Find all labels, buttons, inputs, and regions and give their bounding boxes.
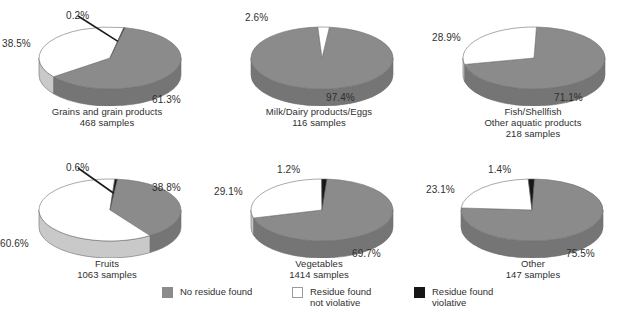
pie-value-label-fruits-no_residue: 38.8% bbox=[152, 182, 181, 193]
pie-value-label-other-no_residue: 75.5% bbox=[566, 248, 595, 259]
caption-line: Fruits bbox=[0, 258, 214, 269]
pie-value-label-grains-not_violative: 38.5% bbox=[2, 38, 31, 49]
pie-graphic-other: 75.5%23.1%1.4% bbox=[426, 158, 640, 258]
caption-line: Other bbox=[426, 258, 640, 269]
caption-line: Grains and grain products bbox=[0, 106, 214, 117]
pie-value-label-milk-dairy-eggs-not_violative: 2.6% bbox=[245, 12, 268, 23]
pie-caption-grains: Grains and grain products468 samples bbox=[0, 106, 214, 128]
pie-value-label-other-not_violative: 23.1% bbox=[426, 184, 455, 195]
pie-svg-fruits bbox=[0, 158, 214, 258]
caption-line: 468 samples bbox=[0, 117, 214, 128]
caption-line: 218 samples bbox=[426, 128, 640, 139]
pie-chart-fruits: 38.8%60.6%0.6%Fruits1063 samples bbox=[0, 158, 214, 280]
caption-line: Vegetables bbox=[212, 258, 426, 269]
caption-line: 116 samples bbox=[212, 117, 426, 128]
legend-swatch-no_residue bbox=[162, 287, 173, 298]
chart-legend: No residue foundResidue found not violat… bbox=[0, 282, 644, 324]
pie-svg-other bbox=[426, 158, 640, 258]
pie-value-label-grains-no_residue: 61.3% bbox=[152, 94, 181, 105]
legend-item-no_residue: No residue found bbox=[162, 286, 252, 298]
legend-label-violative: Residue found violative bbox=[432, 286, 493, 308]
pie-value-label-fruits-violative: 0.6% bbox=[66, 162, 89, 173]
pie-chart-figure: 61.3%38.5%0.2%Grains and grain products4… bbox=[0, 0, 644, 324]
caption-line: 147 samples bbox=[426, 269, 640, 280]
pie-graphic-grains: 61.3%38.5%0.2% bbox=[0, 6, 214, 106]
pie-graphic-vegetables: 69.7%29.1%1.2% bbox=[212, 158, 426, 258]
pie-svg-fish-shellfish bbox=[426, 6, 640, 106]
pie-caption-other: Other147 samples bbox=[426, 258, 640, 280]
pie-chart-milk-dairy-eggs: 97.4%2.6%Milk/Dairy products/Eggs116 sam… bbox=[212, 6, 426, 128]
legend-swatch-not_violative bbox=[292, 287, 303, 298]
pie-value-label-fruits-not_violative: 60.6% bbox=[0, 238, 29, 249]
pie-caption-fruits: Fruits1063 samples bbox=[0, 258, 214, 280]
pie-graphic-fish-shellfish: 71.1%28.9% bbox=[426, 6, 640, 106]
caption-line: Fish/Shellfish bbox=[426, 106, 640, 117]
pie-caption-vegetables: Vegetables1414 samples bbox=[212, 258, 426, 280]
pie-chart-grains: 61.3%38.5%0.2%Grains and grain products4… bbox=[0, 6, 214, 128]
pie-chart-vegetables: 69.7%29.1%1.2%Vegetables1414 samples bbox=[212, 158, 426, 280]
pie-caption-fish-shellfish: Fish/ShellfishOther aquatic products218 … bbox=[426, 106, 640, 140]
caption-line: 1063 samples bbox=[0, 269, 214, 280]
pie-value-label-vegetables-not_violative: 29.1% bbox=[214, 186, 243, 197]
pie-svg-grains bbox=[0, 6, 214, 106]
pie-chart-fish-shellfish: 71.1%28.9%Fish/ShellfishOther aquatic pr… bbox=[426, 6, 640, 140]
caption-line: Other aquatic products bbox=[426, 117, 640, 128]
pie-value-label-vegetables-no_residue: 69.7% bbox=[352, 248, 381, 259]
legend-swatch-violative bbox=[414, 287, 425, 298]
pie-graphic-fruits: 38.8%60.6%0.6% bbox=[0, 158, 214, 258]
pie-graphic-milk-dairy-eggs: 97.4%2.6% bbox=[212, 6, 426, 106]
pie-value-label-grains-violative: 0.2% bbox=[66, 10, 89, 21]
caption-line: 1414 samples bbox=[212, 269, 426, 280]
pie-value-label-fish-shellfish-not_violative: 28.9% bbox=[432, 32, 461, 43]
pie-slice-top-not_violative bbox=[461, 179, 532, 210]
caption-line: Milk/Dairy products/Eggs bbox=[212, 106, 426, 117]
pie-svg-vegetables bbox=[212, 158, 426, 258]
pie-value-label-fish-shellfish-no_residue: 71.1% bbox=[554, 92, 583, 103]
pie-chart-other: 75.5%23.1%1.4%Other147 samples bbox=[426, 158, 640, 280]
legend-item-violative: Residue found violative bbox=[414, 286, 493, 308]
legend-label-not_violative: Residue found not violative bbox=[310, 286, 371, 308]
pie-value-label-milk-dairy-eggs-no_residue: 97.4% bbox=[326, 92, 355, 103]
pie-value-label-other-violative: 1.4% bbox=[488, 164, 511, 175]
legend-label-no_residue: No residue found bbox=[180, 286, 252, 297]
pie-value-label-vegetables-violative: 1.2% bbox=[277, 164, 300, 175]
pie-slice-top-not_violative bbox=[463, 27, 536, 64]
legend-item-not_violative: Residue found not violative bbox=[292, 286, 371, 308]
pie-caption-milk-dairy-eggs: Milk/Dairy products/Eggs116 samples bbox=[212, 106, 426, 128]
